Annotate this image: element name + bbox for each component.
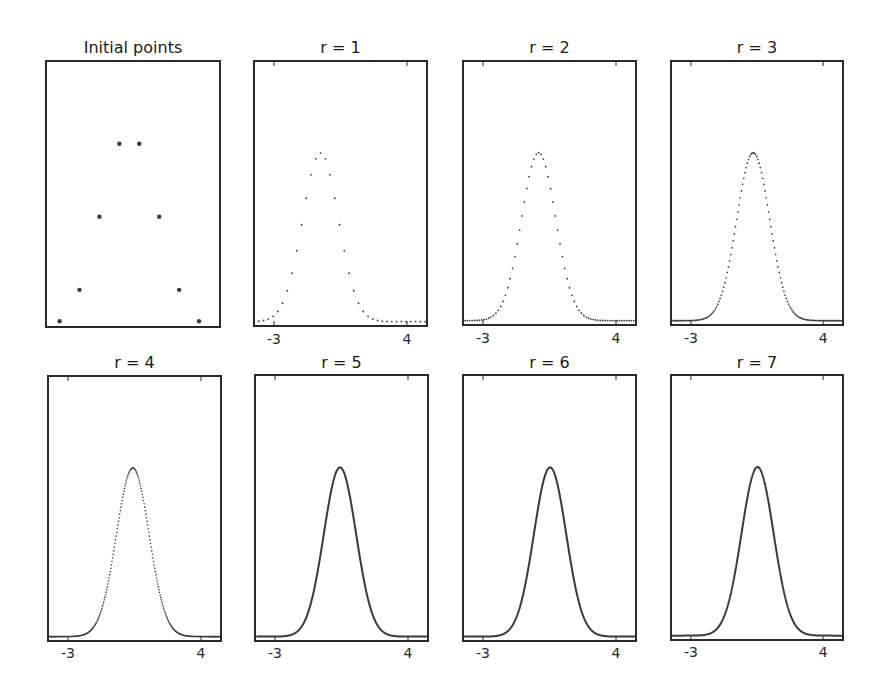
data-point bbox=[495, 312, 497, 314]
plot-area bbox=[672, 376, 842, 639]
data-point bbox=[362, 311, 364, 313]
data-point bbox=[550, 188, 552, 190]
plot-area bbox=[47, 62, 219, 326]
data-point bbox=[120, 510, 122, 512]
data-point bbox=[358, 302, 360, 304]
data-point bbox=[353, 290, 355, 292]
data-point bbox=[711, 313, 713, 315]
data-point bbox=[219, 636, 221, 638]
data-point bbox=[576, 306, 578, 308]
data-point bbox=[764, 190, 766, 192]
panel-title: r = 5 bbox=[254, 354, 429, 372]
data-point bbox=[157, 215, 161, 219]
data-point bbox=[137, 476, 139, 478]
panel-r1: r = 1 -3 4 bbox=[253, 34, 428, 348]
data-point bbox=[161, 601, 163, 603]
panel-title: r = 4 bbox=[47, 354, 222, 372]
data-point bbox=[157, 583, 159, 585]
data-point bbox=[151, 550, 153, 552]
data-point bbox=[745, 167, 747, 169]
data-point bbox=[771, 233, 773, 235]
plot-frame bbox=[462, 60, 637, 326]
data-point bbox=[117, 524, 119, 526]
plot-frame bbox=[254, 374, 429, 642]
data-point bbox=[774, 247, 776, 249]
data-point bbox=[419, 321, 421, 323]
data-point bbox=[301, 224, 303, 226]
data-point bbox=[728, 266, 730, 268]
data-point bbox=[315, 158, 317, 160]
data-point bbox=[267, 318, 269, 320]
data-point bbox=[630, 320, 632, 322]
data-point bbox=[756, 156, 758, 158]
plot-area bbox=[49, 377, 220, 640]
data-point bbox=[152, 557, 154, 559]
data-point bbox=[108, 577, 110, 579]
curve-line bbox=[464, 467, 635, 636]
data-point bbox=[581, 312, 583, 314]
data-point bbox=[777, 266, 779, 268]
data-point bbox=[400, 321, 402, 323]
data-point bbox=[478, 319, 480, 321]
data-point bbox=[741, 190, 743, 192]
data-point bbox=[554, 215, 556, 217]
data-point bbox=[116, 532, 118, 534]
data-point bbox=[162, 603, 164, 605]
data-point bbox=[146, 521, 148, 523]
data-point bbox=[141, 493, 143, 495]
data-point bbox=[153, 564, 155, 566]
data-point bbox=[757, 159, 759, 161]
plot-frame bbox=[670, 374, 844, 641]
x-tick-label: 4 bbox=[819, 644, 828, 660]
data-point bbox=[519, 229, 521, 231]
data-point bbox=[149, 535, 151, 537]
data-point bbox=[144, 510, 146, 512]
data-point bbox=[780, 277, 782, 279]
plot-frame bbox=[47, 375, 222, 642]
data-point bbox=[717, 303, 719, 305]
data-point bbox=[761, 172, 763, 174]
data-point bbox=[759, 167, 761, 169]
data-point bbox=[128, 473, 130, 475]
data-point bbox=[545, 166, 547, 168]
data-point bbox=[158, 586, 160, 588]
panel-r5: r = 5 -3 4 bbox=[254, 348, 429, 663]
data-point bbox=[148, 532, 150, 534]
data-point bbox=[124, 488, 126, 490]
data-point bbox=[136, 471, 138, 473]
data-point bbox=[562, 256, 564, 258]
curve-line bbox=[672, 467, 842, 636]
data-point bbox=[729, 260, 731, 262]
panel-initial-points: Initial points bbox=[45, 34, 221, 328]
panel-title: r = 7 bbox=[670, 354, 844, 372]
x-tick-label: 4 bbox=[819, 330, 828, 346]
data-point bbox=[310, 174, 312, 176]
data-point bbox=[164, 611, 166, 613]
data-point bbox=[467, 320, 469, 322]
data-point bbox=[104, 597, 106, 599]
data-point bbox=[611, 320, 613, 322]
data-point bbox=[381, 320, 383, 322]
data-point bbox=[778, 272, 780, 274]
data-point bbox=[715, 308, 717, 310]
data-point bbox=[746, 162, 748, 164]
data-point bbox=[528, 176, 530, 178]
data-point bbox=[469, 320, 471, 322]
data-point bbox=[98, 616, 100, 618]
data-point bbox=[507, 287, 509, 289]
data-point bbox=[127, 474, 129, 476]
data-point bbox=[147, 524, 149, 526]
data-point bbox=[557, 229, 559, 231]
panel-r7: r = 7 -3 4 bbox=[670, 348, 844, 663]
data-point bbox=[754, 152, 756, 154]
data-point bbox=[590, 318, 592, 320]
data-point bbox=[372, 318, 374, 320]
data-point bbox=[143, 503, 145, 505]
data-point bbox=[156, 577, 158, 579]
data-point bbox=[272, 315, 274, 317]
data-point bbox=[152, 554, 154, 556]
data-point bbox=[155, 574, 157, 576]
data-point bbox=[538, 152, 540, 154]
data-point bbox=[114, 543, 116, 545]
data-point bbox=[99, 615, 101, 617]
